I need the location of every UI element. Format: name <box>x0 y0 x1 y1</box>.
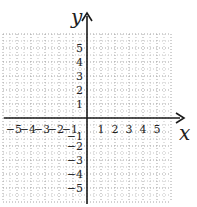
y-tick-label: 4 <box>76 56 83 69</box>
y-tick-label: 2 <box>76 84 83 97</box>
x-tick-label: 2 <box>112 123 119 136</box>
y-tick-label: −3 <box>67 154 83 167</box>
y-tick-label: −2 <box>67 140 83 153</box>
y-tick-label: −5 <box>67 182 83 195</box>
x-axis-label: x <box>179 121 190 145</box>
y-tick-label: 5 <box>76 42 83 55</box>
y-tick-label: −4 <box>67 168 83 181</box>
x-tick-label: 1 <box>98 123 105 136</box>
x-tick-label: 4 <box>140 123 147 136</box>
x-tick-label: 5 <box>154 123 161 136</box>
y-axis-label: y <box>70 5 83 29</box>
y-tick-label: 3 <box>76 70 83 83</box>
y-tick-label: 1 <box>76 98 83 111</box>
coordinate-plane: −5−4−3−2−11234554321−1−2−3−4−5 x y <box>0 0 197 207</box>
x-tick-label: 3 <box>126 123 133 136</box>
